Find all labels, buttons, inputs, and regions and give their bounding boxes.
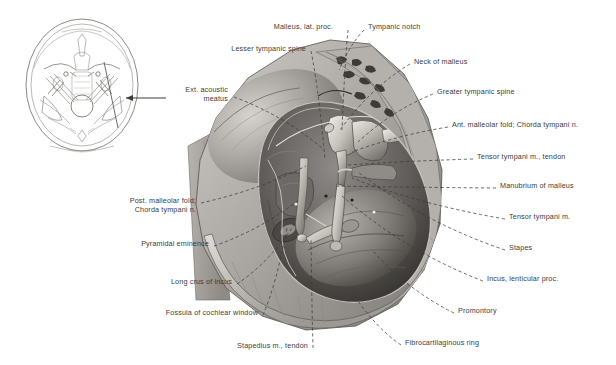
label-stapes: Stapes [509, 243, 532, 252]
label-tensor-tympani-m: Tensor tympani m. [509, 212, 570, 221]
label-neck-of-malleus: Neck of malleus [414, 57, 467, 66]
label-pyramidal-eminence: Pyramidal eminence [141, 239, 209, 248]
label-promontory: Promontory [458, 306, 497, 315]
label-greater-tympanic-spine: Greater tympanic spine [437, 87, 515, 96]
label-stapedius-m-tendon: Stapedius m., tendon [237, 341, 308, 350]
label-fibrocartilaginous-ring: Fibrocartilaginous ring [405, 338, 479, 347]
umbo [330, 241, 342, 251]
label-malleus-lat-proc: Malleus, lat. proc. [274, 22, 333, 31]
label-long-crus-of-incus: Long crus of incus [171, 277, 232, 286]
label-ant-malleolar-fold: Ant. malleolar fold; Chorda tympani n. [452, 120, 578, 129]
label-post-malleolar-fold: Post. malleolar fold; Chorda tympani n. [130, 196, 196, 214]
label-incus-lenticular-proc: Incus, lenticular proc. [487, 274, 558, 283]
label-fossula-cochlear-window: Fossula of cochlear window [166, 308, 258, 317]
label-tympanic-notch: Tympanic notch [368, 22, 420, 31]
label-tensor-tympani-tendon: Tensor tympani m., tendon [477, 152, 565, 161]
label-ext-acoustic-meatus: Ext. acoustic meatus [185, 85, 228, 103]
label-lesser-tympanic-spine: Lesser tympanic spine [231, 44, 306, 53]
incus-lenticular-process [297, 234, 307, 242]
label-manubrium-of-malleus: Manubrium of malleus [500, 181, 574, 190]
